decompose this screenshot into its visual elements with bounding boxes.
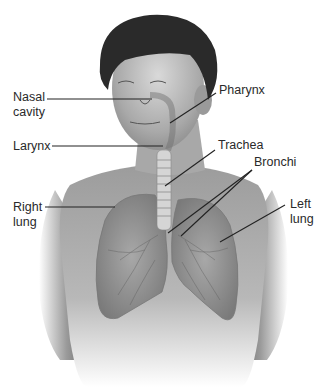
label-nasal-cavity: Nasal cavity [13, 90, 45, 120]
label-right-lung: Right lung [13, 200, 42, 230]
label-pharynx: Pharynx [219, 83, 265, 98]
respiratory-system-illustration [0, 0, 327, 387]
trachea-shape [157, 150, 171, 230]
label-larynx: Larynx [13, 139, 51, 154]
label-bronchi: Bronchi [254, 155, 296, 170]
label-left-lung: Left lung [290, 197, 314, 227]
label-trachea: Trachea [218, 138, 263, 153]
